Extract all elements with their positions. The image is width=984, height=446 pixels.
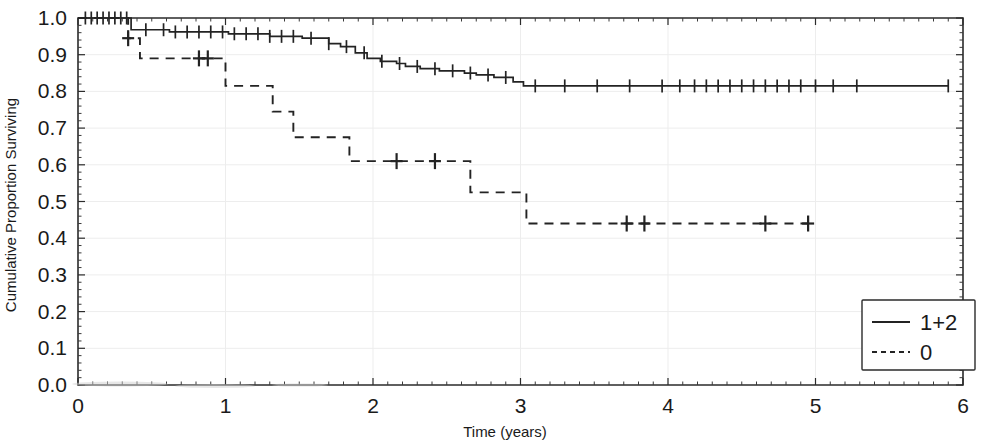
legend: 1+2 0 <box>862 300 975 370</box>
x-tick-label: 3 <box>515 394 527 417</box>
y-tick-label: 0.6 <box>38 153 67 176</box>
y-tick-label: 0.7 <box>38 116 67 139</box>
y-axis-tick-labels: 0.00.10.20.30.40.50.60.70.80.91.0 <box>38 6 68 396</box>
y-tick-label: 0.5 <box>38 190 67 213</box>
y-tick-label: 0.4 <box>38 226 68 249</box>
y-tick-label: 0.3 <box>38 263 67 286</box>
legend-box <box>862 300 975 370</box>
y-tick-label: 1.0 <box>38 6 67 29</box>
x-tick-label: 5 <box>810 394 822 417</box>
scan-artifacts <box>72 382 328 388</box>
y-axis-title: Cumulative Proportion Surviving <box>2 98 19 312</box>
x-tick-label: 2 <box>367 394 379 417</box>
x-tick-label: 0 <box>72 394 84 417</box>
y-tick-label: 0.8 <box>38 79 67 102</box>
gridlines <box>79 19 962 384</box>
x-axis-tick-labels: 0123456 <box>72 394 969 417</box>
series-dashed <box>78 18 814 232</box>
legend-label-1: 0 <box>920 340 932 365</box>
y-tick-label: 0.1 <box>38 336 67 359</box>
y-tick-label: 0.9 <box>38 43 67 66</box>
series-group <box>78 12 948 232</box>
y-tick-label: 0.0 <box>38 373 67 396</box>
survival-chart-figure: 0.00.10.20.30.40.50.60.70.80.91.0 012345… <box>0 0 984 446</box>
legend-label-0: 1+2 <box>920 310 957 335</box>
y-tick-label: 0.2 <box>38 300 67 323</box>
chart-svg: 0.00.10.20.30.40.50.60.70.80.91.0 012345… <box>0 0 984 446</box>
x-axis-title: Time (years) <box>463 423 547 440</box>
x-tick-label: 6 <box>957 394 969 417</box>
x-tick-label: 1 <box>220 394 232 417</box>
x-tick-label: 4 <box>662 394 674 417</box>
survival-curve <box>78 18 808 224</box>
